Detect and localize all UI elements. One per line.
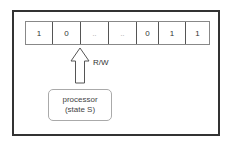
processor-state-label: (state S) xyxy=(65,105,95,115)
processor-label: processor xyxy=(62,95,97,105)
read-write-head-arrow-icon xyxy=(0,0,228,143)
processor-box: processor (state S) xyxy=(48,89,112,121)
read-write-label: R/W xyxy=(93,58,109,67)
